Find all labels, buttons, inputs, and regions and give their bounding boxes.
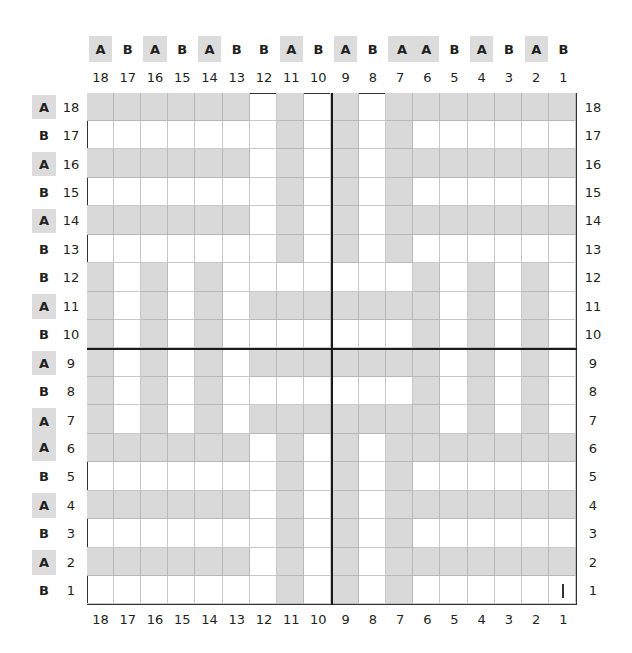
grid-cell — [549, 320, 576, 348]
grid-cell — [440, 235, 467, 263]
grid-cell — [195, 235, 222, 263]
grid-cell — [332, 178, 359, 206]
grid-cell — [413, 377, 440, 405]
grid-cell — [440, 178, 467, 206]
grid-cell — [195, 548, 222, 576]
row-number-right-18: 18 — [580, 93, 606, 121]
grid-cell — [359, 292, 386, 320]
grid-cell — [277, 93, 304, 121]
grid-cell — [87, 149, 114, 177]
grid-cell — [114, 320, 141, 348]
grid-cell — [304, 434, 331, 462]
grid-cell — [195, 405, 222, 433]
column-number-bottom-4: 4 — [468, 608, 495, 630]
grid-cell — [195, 121, 222, 149]
grid-cell — [304, 377, 331, 405]
grid-cell — [223, 149, 250, 177]
row-number-right-1: 1 — [580, 577, 606, 605]
column-number-bottom-18: 18 — [87, 608, 114, 630]
column-number-bottom-12: 12 — [250, 608, 277, 630]
grid-cell — [87, 349, 114, 377]
grid-cell — [522, 235, 549, 263]
grid-cell — [440, 263, 467, 291]
grid-cell — [522, 121, 549, 149]
row-number-left-10: 10 — [58, 321, 84, 349]
grid-cell — [468, 263, 495, 291]
grid-cell — [413, 519, 440, 547]
grid-cell — [495, 548, 522, 576]
grid-cell — [277, 292, 304, 320]
grid-cell — [304, 121, 331, 149]
grid-cell — [549, 263, 576, 291]
grid-cell — [223, 462, 250, 490]
grid-cell — [495, 405, 522, 433]
grid-cell — [304, 206, 331, 234]
row-number-right-7: 7 — [580, 406, 606, 434]
grid-cell — [495, 320, 522, 348]
grid-cell — [413, 405, 440, 433]
grid-cell — [413, 149, 440, 177]
row-label-3: B — [32, 522, 56, 546]
grid-cell — [304, 548, 331, 576]
column-label-14: A — [198, 36, 221, 62]
grid-cell — [195, 434, 222, 462]
grid-cell — [304, 519, 331, 547]
grid-cell — [223, 405, 250, 433]
grid-cell — [87, 292, 114, 320]
grid-cell — [468, 149, 495, 177]
grid-cell — [277, 149, 304, 177]
grid-cell — [440, 576, 467, 604]
grid-cell — [168, 178, 195, 206]
column-number-top-12: 12 — [250, 66, 277, 88]
grid-cell — [195, 149, 222, 177]
row-number-left-14: 14 — [58, 207, 84, 235]
grid-cell — [468, 235, 495, 263]
row-number-left-17: 17 — [58, 121, 84, 149]
grid-cell — [304, 93, 331, 121]
grid-cell — [522, 93, 549, 121]
grid-cell — [332, 548, 359, 576]
grid-cell — [386, 235, 413, 263]
column-number-bottom-16: 16 — [141, 608, 168, 630]
grid-cell — [87, 178, 114, 206]
grid-cell — [332, 206, 359, 234]
grid-cell — [413, 548, 440, 576]
grid-cell — [522, 292, 549, 320]
grid-cell — [495, 377, 522, 405]
grid-cell — [250, 206, 277, 234]
grid-cell — [332, 377, 359, 405]
grid-cell — [223, 178, 250, 206]
row-number-left-12: 12 — [58, 264, 84, 292]
grid-cell — [386, 292, 413, 320]
row-label-13: B — [32, 237, 56, 261]
grid-cell — [114, 462, 141, 490]
grid-cell — [141, 377, 168, 405]
grid-cell — [359, 149, 386, 177]
row-label-15: B — [32, 180, 56, 204]
column-number-top-16: 16 — [141, 66, 168, 88]
grid-cell — [168, 576, 195, 604]
grid-cell — [386, 491, 413, 519]
grid-cell — [522, 548, 549, 576]
grid-cell — [549, 434, 576, 462]
grid-cell — [114, 235, 141, 263]
grid-cell — [386, 548, 413, 576]
grid-cell — [549, 206, 576, 234]
grid-cell — [277, 377, 304, 405]
row-number-left-16: 16 — [58, 150, 84, 178]
grid-cell — [359, 462, 386, 490]
grid-cell — [195, 491, 222, 519]
grid-cell — [386, 178, 413, 206]
grid-cell — [495, 519, 522, 547]
grid-cell — [304, 491, 331, 519]
grid-cell — [413, 349, 440, 377]
grid-cell — [114, 405, 141, 433]
grid-cell — [250, 548, 277, 576]
grid-cell — [250, 178, 277, 206]
grid-cell — [386, 519, 413, 547]
grid-cell — [87, 462, 114, 490]
grid-cell — [386, 405, 413, 433]
row-number-left-2: 2 — [58, 548, 84, 576]
column-label-1: B — [552, 36, 575, 62]
grid-cell — [250, 377, 277, 405]
